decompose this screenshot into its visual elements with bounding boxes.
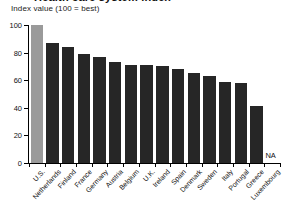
bar-greece bbox=[250, 106, 262, 163]
bar-u-k bbox=[140, 65, 152, 163]
bar-italy bbox=[219, 82, 231, 163]
x-tick-mark bbox=[155, 163, 156, 167]
chart-title: Health care system index bbox=[34, 0, 171, 3]
bar-belgium bbox=[125, 65, 137, 163]
x-tick-mark bbox=[280, 163, 281, 167]
x-tick-mark bbox=[170, 163, 171, 167]
chart-subtitle: Index value (100 = best) bbox=[11, 4, 99, 13]
y-tick-mark bbox=[24, 80, 28, 81]
x-tick-mark bbox=[264, 163, 265, 167]
x-tick-mark bbox=[249, 163, 250, 167]
x-tick-mark bbox=[217, 163, 218, 167]
y-tick-mark bbox=[24, 163, 28, 164]
x-tick-mark bbox=[45, 163, 46, 167]
bar-spain bbox=[172, 69, 184, 163]
x-tick-mark bbox=[29, 163, 30, 167]
y-tick-mark bbox=[24, 108, 28, 109]
bar-germany bbox=[93, 57, 105, 163]
x-tick-mark bbox=[233, 163, 234, 167]
x-tick-mark bbox=[139, 163, 140, 167]
y-tick-label: 40 bbox=[14, 103, 22, 112]
y-tick-label: 100 bbox=[9, 21, 22, 30]
plot-area: 020406080100 NA U.S.NetherlandsFinlandFr… bbox=[29, 25, 280, 163]
y-tick-mark bbox=[24, 25, 28, 26]
x-tick-mark bbox=[123, 163, 124, 167]
bar-ireland bbox=[156, 66, 168, 163]
bar-netherlands bbox=[46, 43, 58, 163]
y-tick-label: 20 bbox=[14, 131, 22, 140]
x-tick-mark bbox=[92, 163, 93, 167]
y-axis-line bbox=[28, 25, 29, 164]
y-tick-label: 0 bbox=[18, 159, 22, 168]
x-tick-mark bbox=[107, 163, 108, 167]
x-tick-mark bbox=[76, 163, 77, 167]
y-tick-label: 80 bbox=[14, 48, 22, 57]
x-tick-mark bbox=[186, 163, 187, 167]
bar-france bbox=[78, 54, 90, 163]
y-tick-mark bbox=[24, 53, 28, 54]
y-tick-mark bbox=[24, 135, 28, 136]
bar-denmark bbox=[188, 73, 200, 163]
bar-u-s bbox=[31, 25, 43, 163]
bar-sweden bbox=[203, 76, 215, 163]
bar-austria bbox=[109, 62, 121, 163]
x-tick-mark bbox=[60, 163, 61, 167]
chart-container: Health care system index Index value (10… bbox=[0, 0, 294, 215]
y-tick-label: 60 bbox=[14, 76, 22, 85]
bar-portugal bbox=[235, 83, 247, 163]
na-marker-luxembourg: NA bbox=[265, 151, 275, 160]
bar-finland bbox=[62, 47, 74, 163]
x-tick-mark bbox=[202, 163, 203, 167]
